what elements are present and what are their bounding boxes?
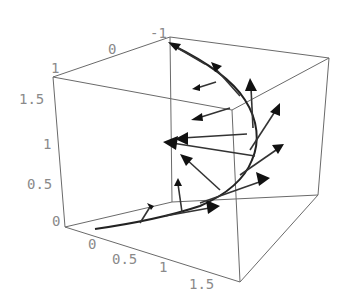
x-tick-1: 1 xyxy=(159,259,167,275)
x-tick-0: 0 xyxy=(88,236,96,252)
y-tick-minus1: -1 xyxy=(150,25,167,41)
z-tick-1: 1 xyxy=(43,136,51,152)
z-tick-0: 0 xyxy=(52,213,60,229)
x-tick-1.5: 1.5 xyxy=(189,276,214,292)
y-tick-0: 0 xyxy=(108,41,116,57)
plot-canvas: 1 0 -1 1.5 1 0.5 0 0 0.5 1 1.5 xyxy=(0,0,341,301)
y-tick-1: 1 xyxy=(51,60,59,76)
z-tick-1.5: 1.5 xyxy=(19,91,44,107)
3d-plot: 1 0 -1 1.5 1 0.5 0 0 0.5 1 1.5 xyxy=(0,0,341,301)
z-tick-0.5: 0.5 xyxy=(27,176,52,192)
x-tick-0.5: 0.5 xyxy=(112,251,137,267)
